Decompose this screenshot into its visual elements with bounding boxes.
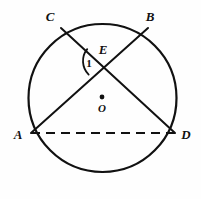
circle-diagram-svg: C B E A D 1 O bbox=[0, 0, 201, 199]
label-point-e: E bbox=[98, 42, 108, 57]
geometry-figure: C B E A D 1 O bbox=[0, 0, 201, 199]
label-center-o: O bbox=[98, 102, 106, 114]
label-point-c: C bbox=[46, 9, 55, 24]
label-angle-1: 1 bbox=[86, 57, 92, 69]
label-point-b: B bbox=[145, 9, 155, 24]
chord-cd bbox=[61, 28, 175, 133]
center-point-dot bbox=[100, 95, 105, 100]
label-point-d: D bbox=[180, 127, 191, 142]
chord-ab bbox=[31, 28, 148, 133]
label-point-a: A bbox=[13, 127, 23, 142]
